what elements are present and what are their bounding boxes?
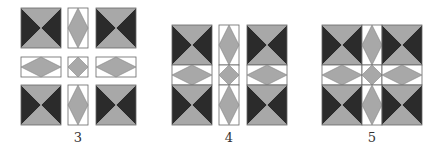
quilt-diagram bbox=[0, 0, 435, 151]
figure-3 bbox=[21, 8, 136, 125]
figure-5 bbox=[322, 25, 422, 125]
figure-4 bbox=[172, 25, 287, 125]
figure-5-label: 5 bbox=[368, 130, 376, 145]
figure-3-label: 3 bbox=[74, 130, 82, 145]
figure-4-label: 4 bbox=[225, 130, 233, 145]
